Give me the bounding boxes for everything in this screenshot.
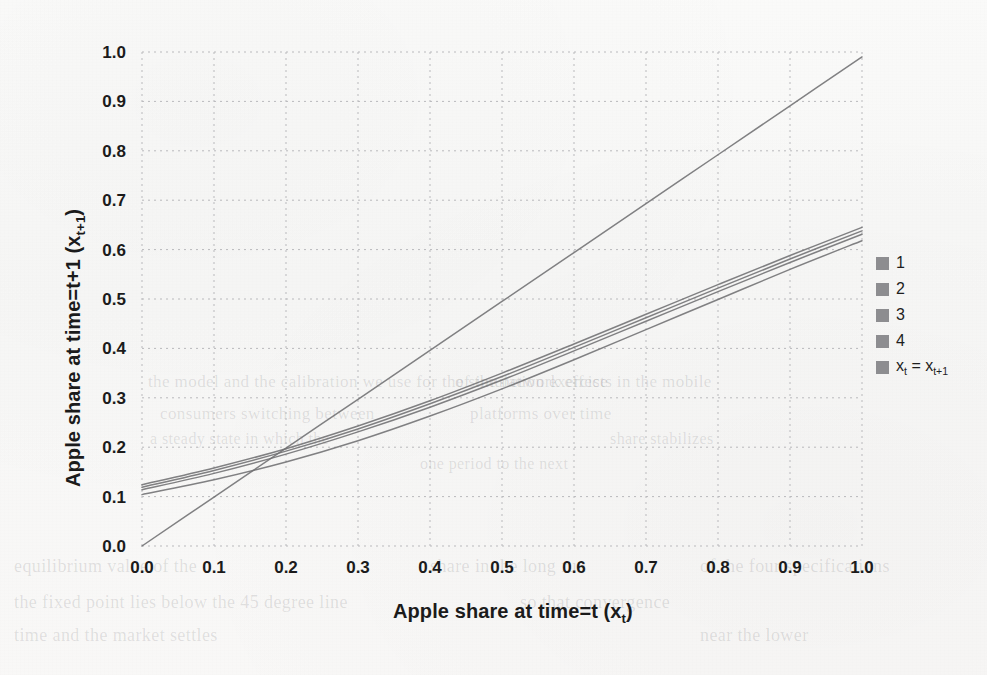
x-tick-label: 0.5 [490,558,514,577]
line-chart: 0.00.10.20.30.40.50.60.70.80.91.0 0.00.1… [0,0,987,675]
legend-label-sub2: t+1 [933,365,948,377]
legend-label: 1 [896,254,905,272]
y-axis-title: Apple share at time=t+1 (xt+1) [62,209,88,487]
y-tick-label: 0.9 [102,92,126,111]
y-tick-label: 0.1 [102,488,126,507]
x-tick-label: 0.8 [706,558,730,577]
legend-swatch [876,361,889,374]
y-tick-label: 1.0 [102,43,126,62]
y-tick-label: 0.6 [102,241,126,260]
x-axis-title: Apple share at time=t (xt) [393,600,633,626]
legend-item[interactable]: 4 [876,328,984,354]
legend-item[interactable]: 1 [876,250,984,276]
x-tick-label: 0.6 [562,558,586,577]
y-axis-title-sub: t+1 [73,216,88,236]
x-tick-label: 0.0 [130,558,154,577]
x-tick-label: 0.4 [418,558,442,577]
series-line [142,241,862,495]
legend-label: 4 [896,332,905,350]
x-tick-label: 0.2 [274,558,298,577]
legend-swatch [876,283,889,296]
legend-label: 3 [896,306,905,324]
y-axis-title-tail: ) [62,209,84,216]
y-tick-label: 0.3 [102,389,126,408]
y-tick-label: 0.7 [102,191,126,210]
x-tick-label: 0.1 [202,558,226,577]
x-tick-label: 1.0 [850,558,874,577]
series-line [142,227,862,484]
legend: 1234xt = xt+1 [876,250,984,380]
legend-item[interactable]: 2 [876,276,984,302]
y-axis-title-main: Apple share at time=t+1 (x [62,235,84,487]
legend-swatch [876,309,889,322]
x-axis-title-tail: ) [626,600,633,622]
x-tick-label: 0.3 [346,558,370,577]
legend-item[interactable]: 3 [876,302,984,328]
series-line [142,234,862,489]
x-axis-title-main: Apple share at time=t (x [393,600,622,622]
legend-swatch [876,257,889,270]
y-tick-label: 0.2 [102,438,126,457]
x-tick-label: 0.9 [778,558,802,577]
x-tick-label: 0.7 [634,558,658,577]
y-tick-label: 0.4 [102,339,126,358]
legend-item[interactable]: xt = xt+1 [876,354,984,380]
y-tick-label: 0.0 [102,537,126,556]
legend-swatch [876,335,889,348]
x-tick-labels: 0.00.10.20.30.40.50.60.70.80.91.0 [130,558,874,577]
legend-label-sub: t [904,365,907,377]
y-tick-label: 0.8 [102,142,126,161]
y-tick-labels: 0.00.10.20.30.40.50.60.70.80.91.0 [102,43,126,556]
legend-label: xt = xt+1 [896,357,948,377]
y-tick-label: 0.5 [102,290,126,309]
legend-label: 2 [896,280,905,298]
